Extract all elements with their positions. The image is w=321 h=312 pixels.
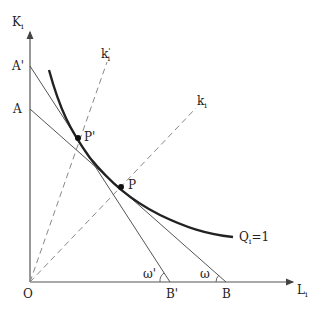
angle-arc-omega — [216, 275, 219, 282]
label-omega: ω — [200, 267, 210, 281]
label-ray-k-prime: k'i — [101, 46, 110, 63]
point-p — [118, 184, 124, 190]
label-a: A — [12, 102, 22, 116]
label-omega-prime: ω' — [143, 267, 156, 281]
x-axis-label: Li — [297, 283, 308, 299]
ray-k-prime — [30, 62, 107, 282]
point-p-prime — [75, 135, 81, 141]
angle-arc-omega-prime — [160, 273, 164, 282]
label-p-prime: P' — [84, 130, 95, 144]
isoquant-curve — [49, 70, 233, 237]
y-axis-label: Ki — [12, 15, 24, 31]
label-b: B — [222, 287, 231, 301]
label-a-prime: A' — [11, 59, 24, 73]
label-ray-k: ki — [197, 94, 207, 110]
label-p: P — [128, 178, 136, 192]
ray-k — [30, 108, 196, 282]
origin-label: O — [23, 287, 33, 301]
label-isoquant: Qi=1 — [239, 230, 269, 246]
isocost-line-prime — [30, 66, 170, 282]
isoquant-diagram: Ki Li O A' A B' B P' P k'i ki Qi=1 ω' ω — [0, 0, 321, 312]
label-b-prime: B' — [166, 287, 178, 301]
